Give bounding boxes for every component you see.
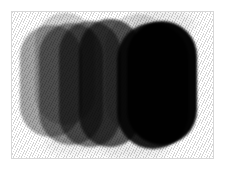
shape-cluster: [12, 12, 213, 158]
artwork-frame: [11, 11, 214, 159]
image-canvas: [0, 0, 229, 172]
blob-8-black-foreground: [127, 21, 197, 145]
